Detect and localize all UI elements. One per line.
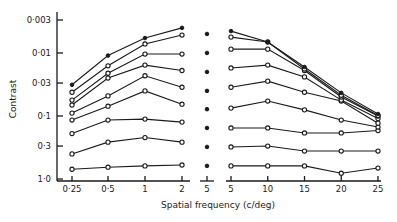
- data-point-open: [266, 144, 270, 148]
- data-point-open: [180, 85, 184, 89]
- data-point-open: [106, 76, 110, 80]
- data-point-open: [229, 145, 233, 149]
- data-point-filled: [205, 164, 209, 168]
- data-point-filled: [266, 40, 270, 44]
- y-tick-label: 1·0: [37, 174, 51, 184]
- data-point-open: [302, 90, 306, 94]
- data-point-open: [70, 167, 74, 171]
- data-point-filled: [303, 65, 307, 69]
- data-point-filled: [339, 91, 343, 95]
- data-point-open: [180, 163, 184, 167]
- data-point-open: [302, 75, 306, 79]
- x-tick-label: 20: [336, 184, 347, 194]
- data-point-open: [143, 74, 147, 78]
- data-point-filled: [106, 54, 110, 58]
- x-axis-title: Spatial frequency (c/deg): [161, 200, 275, 210]
- data-point-filled: [205, 70, 209, 74]
- series-5-right-line: [231, 81, 378, 123]
- data-point-filled: [205, 51, 209, 55]
- data-point-open: [302, 131, 306, 135]
- data-point-open: [106, 64, 110, 68]
- contrast-sensitivity-chart: 0·0030·010·030·10·31·00·250·512551015202…: [0, 0, 397, 222]
- data-point-open: [180, 140, 184, 144]
- data-point-open: [266, 99, 270, 103]
- data-point-open: [302, 108, 306, 112]
- series-8-left-line: [72, 138, 182, 154]
- data-point-open: [180, 120, 184, 124]
- data-point-open: [266, 79, 270, 83]
- data-point-open: [143, 89, 147, 93]
- data-point-filled: [376, 112, 380, 116]
- series-1-left-line: [72, 28, 182, 85]
- x-tick-label: 0·25: [63, 184, 82, 194]
- data-point-filled: [180, 26, 184, 30]
- x-tick-label: 5: [204, 184, 209, 194]
- data-point-open: [106, 140, 110, 144]
- data-point-open: [339, 149, 343, 153]
- data-point-filled: [205, 32, 209, 36]
- data-point-open: [376, 166, 380, 170]
- data-point-open: [229, 126, 233, 130]
- data-point-open: [70, 118, 74, 122]
- data-point-open: [266, 47, 270, 51]
- data-point-open: [302, 149, 306, 153]
- data-point-open: [376, 121, 380, 125]
- y-tick-label: 0·03: [32, 78, 51, 88]
- data-point-filled: [70, 83, 74, 87]
- data-point-open: [229, 106, 233, 110]
- data-point-open: [143, 63, 147, 67]
- data-point-filled: [143, 36, 147, 40]
- x-tick-label: 2: [179, 184, 184, 194]
- series-9-left-line: [72, 165, 182, 169]
- data-point-open: [266, 126, 270, 130]
- data-point-open: [143, 52, 147, 56]
- y-tick-label: 0·003: [27, 15, 51, 25]
- data-point-open: [339, 131, 343, 135]
- series-5-left-line: [72, 76, 182, 113]
- data-point-open: [339, 118, 343, 122]
- data-point-filled: [205, 126, 209, 130]
- data-point-open: [180, 33, 184, 37]
- y-tick-label: 0·01: [32, 48, 51, 58]
- data-point-open: [229, 85, 233, 89]
- x-tick-label: 25: [373, 184, 384, 194]
- tick-labels: 0·0030·010·030·10·31·00·250·512551015202…: [27, 15, 384, 194]
- data-point-open: [70, 111, 74, 115]
- data-point-open: [143, 164, 147, 168]
- data-point-open: [180, 52, 184, 56]
- data-point-open: [70, 131, 74, 135]
- x-tick-label: 10: [262, 184, 273, 194]
- data-point-open: [70, 103, 74, 107]
- data-point-open: [266, 63, 270, 67]
- y-axis-title: Contrast: [8, 79, 18, 118]
- data-point-open: [70, 152, 74, 156]
- data-point-open: [143, 42, 147, 46]
- data-point-open: [229, 35, 233, 39]
- series-3-right-line: [231, 49, 378, 116]
- data-point-filled: [205, 145, 209, 149]
- x-tick-label: 15: [299, 184, 310, 194]
- data-point-open: [229, 164, 233, 168]
- data-point-filled: [205, 89, 209, 93]
- data-point-open: [106, 104, 110, 108]
- plot-area: [70, 26, 380, 175]
- data-point-open: [143, 117, 147, 121]
- data-point-filled: [205, 107, 209, 111]
- data-point-open: [70, 98, 74, 102]
- data-point-open: [302, 164, 306, 168]
- data-point-open: [106, 71, 110, 75]
- y-tick-label: 0·3: [37, 141, 51, 151]
- data-point-open: [106, 94, 110, 98]
- series-7-left-line: [72, 119, 182, 133]
- data-point-open: [106, 165, 110, 169]
- data-point-open: [266, 164, 270, 168]
- data-point-open: [106, 118, 110, 122]
- data-point-open: [339, 171, 343, 175]
- data-point-open: [229, 66, 233, 70]
- data-point-open: [180, 68, 184, 72]
- x-tick-label: 5: [228, 184, 233, 194]
- data-point-open: [229, 47, 233, 51]
- data-point-filled: [229, 29, 233, 33]
- data-point-open: [376, 149, 380, 153]
- x-tick-label: 1: [142, 184, 147, 194]
